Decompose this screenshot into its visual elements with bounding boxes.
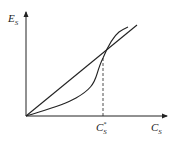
y-axis-label: ES [7,12,19,27]
x-tick-label-critical: C*S [96,121,107,136]
chart: ES C*S CS [0,0,179,142]
x-axis-label: CS [151,121,162,136]
s-curve-series [26,27,128,116]
straight-line-series [26,25,137,116]
